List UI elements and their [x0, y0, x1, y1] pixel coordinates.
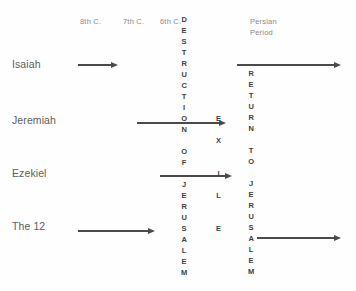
arrow-the-12-right — [257, 235, 341, 241]
column-letter: N — [248, 123, 253, 134]
column-letter: T — [182, 91, 187, 102]
vertical-column-exile: E X I L E — [216, 113, 221, 234]
era-label-persian-period-line2: Period — [250, 28, 273, 37]
column-letter-space — [217, 201, 219, 212]
era-label-7th-century: 7th C. — [123, 17, 144, 26]
column-letter: E — [182, 256, 187, 267]
column-letter-space — [183, 168, 185, 179]
column-letter: E — [216, 223, 221, 234]
column-letter: T — [249, 90, 254, 101]
column-letter: D — [181, 14, 186, 25]
column-letter: I — [183, 102, 185, 113]
column-letter-space — [217, 124, 219, 135]
column-letter-space — [183, 135, 185, 146]
column-letter: E — [216, 113, 221, 124]
column-letter: E — [182, 190, 187, 201]
column-letter: S — [249, 222, 254, 233]
column-letter: S — [182, 223, 187, 234]
column-letter: O — [181, 113, 187, 124]
row-label-ezekiel: Ezekiel — [12, 167, 47, 179]
column-letter-space — [217, 157, 219, 168]
column-letter: U — [248, 101, 253, 112]
column-letter: S — [182, 36, 187, 47]
column-letter: O — [248, 156, 254, 167]
column-letter: N — [181, 124, 186, 135]
column-letter: R — [181, 201, 186, 212]
column-letter: R — [248, 200, 253, 211]
era-label-8th-century: 8th C. — [80, 17, 101, 26]
era-label-6th-century: 6th C. — [160, 17, 181, 26]
row-label-the-12: The 12 — [12, 220, 45, 232]
column-letter-space — [250, 167, 252, 178]
column-letter: X — [216, 135, 221, 146]
column-letter: E — [182, 25, 187, 36]
column-letter: U — [248, 211, 253, 222]
column-letter: T — [182, 47, 187, 58]
column-letter: J — [249, 178, 253, 189]
column-letter: E — [249, 255, 254, 266]
column-letter: M — [181, 267, 187, 278]
column-letter: T — [249, 145, 254, 156]
column-letter: L — [249, 244, 254, 255]
column-letter-space — [217, 179, 219, 190]
vertical-column-destruction-of-jerusalem: DESTRUCTION OF JERUSALEM — [181, 14, 187, 278]
prophets-timeline-diagram: 8th C. 7th C. 6th C. Persian Period Isai… — [0, 0, 356, 291]
column-letter: R — [248, 112, 253, 123]
column-letter: E — [249, 79, 254, 90]
column-letter: F — [182, 157, 187, 168]
row-label-jeremiah: Jeremiah — [12, 114, 56, 126]
column-letter: A — [181, 234, 186, 245]
arrow-ezekiel — [160, 173, 232, 179]
vertical-column-return-to-jerusalem: RETURN TO JERUSALEM — [248, 68, 254, 277]
column-letter-space — [217, 212, 219, 223]
column-letter: A — [248, 233, 253, 244]
column-letter: M — [248, 266, 254, 277]
column-letter: L — [182, 245, 187, 256]
column-letter: I — [217, 168, 219, 179]
column-letter: U — [181, 212, 186, 223]
column-letter: L — [216, 190, 221, 201]
column-letter: U — [181, 69, 186, 80]
column-letter: O — [181, 146, 187, 157]
arrow-the-12-left — [78, 228, 155, 234]
row-label-isaiah: Isaiah — [12, 58, 41, 70]
era-label-persian-period-line1: Persian — [250, 17, 277, 26]
column-letter: E — [249, 189, 254, 200]
column-letter-space — [217, 146, 219, 157]
column-letter: C — [181, 80, 186, 91]
column-letter: J — [182, 179, 186, 190]
column-letter-space — [250, 134, 252, 145]
arrow-isaiah-left — [78, 62, 118, 68]
column-letter: R — [181, 58, 186, 69]
column-letter: R — [248, 68, 253, 79]
